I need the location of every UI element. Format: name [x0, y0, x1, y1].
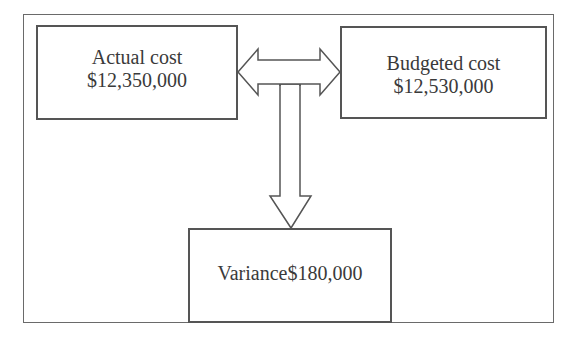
actual-cost-box: Actual cost $12,350,000	[36, 25, 238, 120]
budgeted-cost-box: Budgeted cost $12,530,000	[340, 26, 547, 119]
variance-box: Variance$180,000	[188, 228, 392, 323]
down-arrow-icon	[270, 84, 311, 228]
budgeted-cost-label: Budgeted cost	[387, 52, 501, 75]
actual-cost-value: $12,350,000	[87, 69, 187, 92]
variance-label: Variance$180,000	[218, 262, 363, 285]
budgeted-cost-value: $12,530,000	[394, 75, 494, 98]
actual-cost-label: Actual cost	[92, 46, 183, 69]
